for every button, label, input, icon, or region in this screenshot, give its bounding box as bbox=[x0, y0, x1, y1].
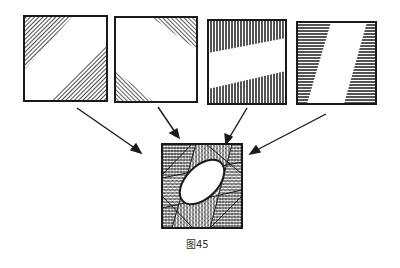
panel-3 bbox=[208, 20, 286, 104]
panel-1 bbox=[24, 16, 107, 101]
figure-caption: 图45 bbox=[186, 236, 209, 251]
panel-2 bbox=[115, 17, 197, 102]
figure-diagram bbox=[0, 0, 400, 268]
result-panel bbox=[162, 144, 242, 228]
panel-4 bbox=[297, 22, 376, 104]
